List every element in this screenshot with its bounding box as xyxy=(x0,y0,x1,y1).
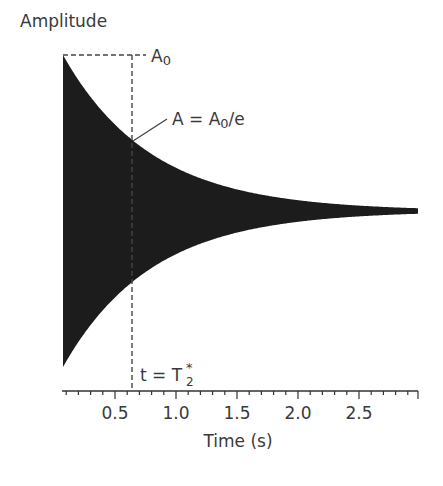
decay-chart: Amplitude A0 A = A0/e t = T 2 * 0.5 1.0 … xyxy=(0,0,443,486)
x-axis-label: Time (s) xyxy=(202,431,272,451)
ae-label: A = A0/e xyxy=(172,109,245,131)
ae-leader-line xyxy=(133,119,167,141)
t2-superscript: * xyxy=(186,360,193,375)
t2-subscript: 2 xyxy=(186,375,194,389)
tick-label: 1.0 xyxy=(162,403,189,423)
tick-label: 1.5 xyxy=(223,403,250,423)
t2-label: t = T xyxy=(140,365,183,385)
tick-label: 2.5 xyxy=(345,403,372,423)
decay-envelope-area xyxy=(63,55,418,367)
x-tick-labels: 0.5 1.0 1.5 2.0 2.5 xyxy=(101,403,372,423)
tick-label: 0.5 xyxy=(101,403,128,423)
tick-label: 2.0 xyxy=(284,403,311,423)
y-axis-label: Amplitude xyxy=(20,11,107,31)
a0-label: A0 xyxy=(151,46,171,68)
x-axis-ticks xyxy=(66,391,418,399)
